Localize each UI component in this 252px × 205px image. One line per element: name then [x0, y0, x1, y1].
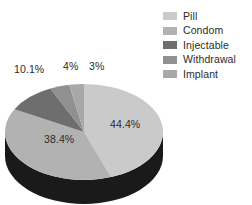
- legend-item[interactable]: Pill: [163, 9, 252, 23]
- pie-top-surface: [5, 84, 163, 180]
- slice-label-condom: 38.4%: [44, 133, 74, 145]
- slice-label-implant: 3%: [89, 60, 104, 72]
- legend-swatch-icon: [163, 27, 177, 35]
- slice-label-injectable: 10.1%: [14, 63, 44, 75]
- slice-label-withdrawal: 4%: [63, 60, 78, 72]
- legend-item-label: Pill: [183, 10, 197, 23]
- legend-item[interactable]: Withdrawal: [163, 53, 252, 67]
- legend-item-label: Condom: [183, 24, 223, 37]
- pie-chart: 44.4% 38.4% 10.1% 4% 3% PillCondomInject…: [0, 0, 252, 205]
- legend-item[interactable]: Injectable: [163, 38, 252, 52]
- legend-item-label: Implant: [183, 68, 218, 81]
- legend-item[interactable]: Condom: [163, 24, 252, 38]
- legend-swatch-icon: [163, 12, 177, 20]
- chart-legend: PillCondomInjectableWithdrawalImplant: [163, 9, 252, 82]
- pie-graphic: [0, 74, 168, 205]
- legend-item-label: Injectable: [183, 39, 229, 52]
- legend-swatch-icon: [163, 70, 177, 78]
- legend-item-label: Withdrawal: [183, 53, 236, 66]
- legend-swatch-icon: [163, 41, 177, 49]
- slice-label-pill: 44.4%: [110, 118, 140, 130]
- legend-swatch-icon: [163, 56, 177, 64]
- legend-item[interactable]: Implant: [163, 67, 252, 81]
- pie-svg: [0, 74, 168, 205]
